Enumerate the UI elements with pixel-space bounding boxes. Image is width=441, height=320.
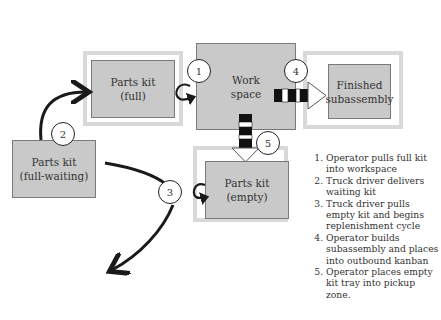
kitting-flow-diagram: Parts kit (full) Work space Finished sub… [0,0,441,320]
step-marker-5: 5 [256,131,280,155]
steps-legend: Operator pulls full kit into workspace T… [312,152,440,300]
arrow-empty-loop-icon [194,184,207,198]
legend-item: Operator places empty kit tray into pick… [326,266,440,300]
step-marker-2: 2 [51,122,75,146]
legend-item: Truck driver pulls empty kit and begins … [326,198,440,232]
steps-legend-list: Operator pulls full kit into workspace T… [312,152,440,300]
arrow-replenishment-icon [105,163,173,270]
kanban-arrow-outbound-icon [274,82,326,109]
step-marker-3: 3 [158,180,182,204]
legend-item: Truck driver delivers waiting kit [326,175,440,198]
arrow-full-to-workspace-icon [176,85,194,100]
legend-item: Operator pulls full kit into workspace [326,152,440,175]
step-marker-1: 1 [187,59,211,83]
kanban-arrow-pickup-icon [232,114,259,162]
step-marker-4: 4 [284,59,308,83]
legend-item: Operator builds subassembly and places i… [326,232,440,266]
